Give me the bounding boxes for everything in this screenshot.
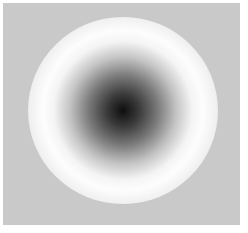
image-frame (3, 3, 240, 225)
radial-gradient-disc (28, 17, 218, 204)
